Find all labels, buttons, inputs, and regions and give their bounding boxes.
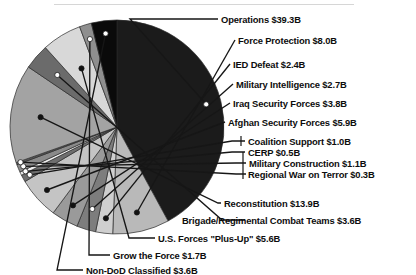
label-operations: Operations $39.3B <box>221 14 301 25</box>
slice-marker <box>23 169 28 174</box>
slice-marker <box>79 66 84 71</box>
slice-marker <box>55 72 60 77</box>
label-ied-defeat: IED Defeat $2.4B <box>233 59 305 70</box>
label-coalition-support: Coalition Support $1.0B <box>248 136 351 147</box>
label-iraq-security-forces: Iraq Security Forces $3.8B <box>233 98 347 109</box>
label-force-protection: Force Protection $8.0B <box>238 35 337 46</box>
slice-marker <box>87 37 92 42</box>
slice-marker <box>103 31 108 36</box>
label-afghan-security-forces: Afghan Security Forces $5.9B <box>228 117 357 128</box>
label-regional-war-on-terror: Regional War on Terror $0.3B <box>248 169 375 180</box>
slice-marker <box>134 210 139 215</box>
label-reconstitution: Reconstitution $13.9B <box>224 198 319 209</box>
slice-marker <box>38 115 43 120</box>
label-military-intelligence: Military Intelligence $2.7B <box>236 79 347 90</box>
label-cerp: CERP $0.5B <box>248 147 300 158</box>
slice-marker <box>204 102 209 107</box>
pie-chart-figure: Operations $39.3B Force Protection $8.0B… <box>0 0 416 275</box>
label-grow-the-force: Grow the Force $1.7B <box>113 250 206 261</box>
slice-marker <box>18 160 23 165</box>
label-military-construction: Military Construction $1.1B <box>249 158 366 169</box>
slice-marker <box>90 206 95 211</box>
label-us-forces-plus-up: U.S. Forces "Plus-Up" $5.6B <box>158 233 280 244</box>
slice-marker <box>44 187 49 192</box>
label-non-dod-classified: Non-DoD Classified $3.6B <box>86 265 198 275</box>
label-brigade-combat-teams: Brigade/Regimental Combat Teams $3.6B <box>182 215 361 226</box>
slice-marker <box>70 203 75 208</box>
slice-marker <box>103 216 108 221</box>
